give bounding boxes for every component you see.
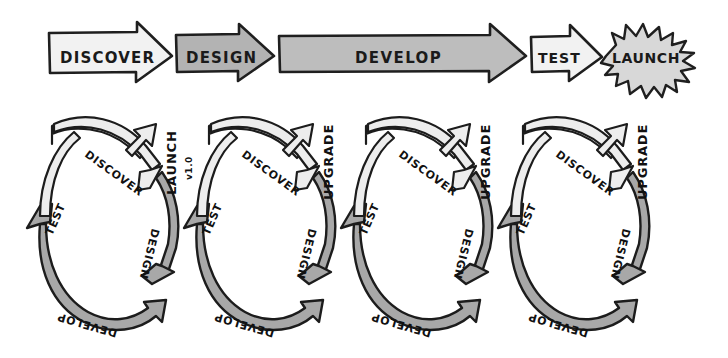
cycle-release-label: LAUNCH — [164, 130, 179, 195]
waterfall-step-label: TEST — [538, 50, 581, 66]
waterfall-step-label: DESIGN — [186, 49, 257, 67]
waterfall-step-label: LAUNCH — [612, 50, 680, 66]
cycle-release-label: UPGRADE — [635, 124, 650, 200]
cycle-release-label: UPGRADE — [321, 124, 336, 200]
cycle-release-label: UPGRADE — [478, 124, 493, 200]
cycle-release-sublabel: v1.0 — [184, 156, 194, 180]
waterfall-step-label: DISCOVER — [60, 49, 155, 67]
waterfall-step-label: DEVELOP — [355, 49, 442, 67]
diagram-canvas: DISCOVER DESIGN DEVELOP TEST LAUNCH DISC… — [0, 0, 728, 358]
